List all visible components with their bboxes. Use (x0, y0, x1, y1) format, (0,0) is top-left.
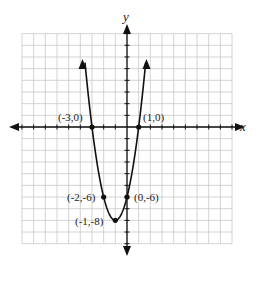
y-axis-down-arrow-icon (123, 246, 131, 256)
coordinate-plane: x y (-3,0) (1,0) (-2,-6) (0,-6) (-1,-8) (0, 0, 258, 282)
curve-right-arrow-icon (143, 59, 151, 69)
x-axis-label: x (239, 119, 246, 134)
point-marker (101, 194, 106, 199)
point-marker (113, 218, 118, 223)
point-label-0-neg6: (0,-6) (134, 191, 159, 204)
point-marker (124, 194, 129, 199)
point-marker (136, 124, 141, 129)
x-axis-left-arrow-icon (9, 123, 19, 131)
point-marker (89, 124, 94, 129)
y-axis-up-arrow-icon (123, 24, 131, 34)
point-label-neg3-0: (-3,0) (58, 111, 83, 124)
point-label-neg2-neg6: (-2,-6) (67, 191, 96, 204)
point-label-neg1-neg8: (-1,-8) (75, 215, 104, 228)
y-axis (123, 24, 131, 256)
point-label-1-0: (1,0) (143, 111, 164, 124)
y-axis-label: y (121, 9, 129, 24)
